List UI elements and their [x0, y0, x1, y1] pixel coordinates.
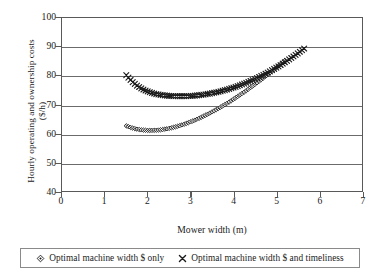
x-tick-mark-0 — [61, 192, 62, 197]
x-tick-mark-2 — [147, 192, 148, 197]
legend-label-dollars-only: Optimal machine width $ only — [49, 253, 164, 263]
diamond-marker-icon — [36, 254, 45, 263]
series-cross — [124, 46, 307, 99]
x-tick-mark-7 — [363, 192, 364, 197]
x-tick-mark-6 — [320, 192, 321, 197]
y-tick-label-80: 80 — [16, 70, 56, 80]
legend-label-dollars-and-timeliness: Optimal machine width $ and timeliness — [191, 253, 343, 263]
y-tick-label-90: 90 — [16, 41, 56, 51]
x-tick-label-4: 4 — [224, 196, 244, 206]
x-tick-label-0: 0 — [51, 196, 71, 206]
y-tick-label-40: 40 — [16, 187, 56, 197]
y-tick-label-70: 70 — [16, 100, 56, 110]
chart-legend: Optimal machine width $ only Optimal mac… — [20, 248, 360, 268]
x-tick-label-7: 7 — [353, 196, 373, 206]
chart-figure: Hourly operating and ownership costs ($/… — [0, 0, 377, 271]
x-tick-mark-4 — [234, 192, 235, 197]
x-tick-label-5: 5 — [267, 196, 287, 206]
legend-entry-dollars-only: Optimal machine width $ only — [36, 253, 164, 263]
y-tick-label-100: 100 — [16, 12, 56, 22]
y-tick-label-50: 50 — [16, 158, 56, 168]
y-tick-label-60: 60 — [16, 129, 56, 139]
plot-area — [61, 17, 363, 192]
legend-entry-dollars-and-timeliness: Optimal machine width $ and timeliness — [178, 253, 343, 263]
data-series-layer — [62, 18, 362, 191]
x-tick-mark-1 — [104, 192, 105, 197]
x-tick-mark-3 — [190, 192, 191, 197]
x-tick-label-3: 3 — [180, 196, 200, 206]
x-tick-label-6: 6 — [310, 196, 330, 206]
x-tick-label-2: 2 — [137, 196, 157, 206]
x-axis-title: Mower width (m) — [61, 224, 363, 235]
x-tick-mark-5 — [277, 192, 278, 197]
x-tick-label-1: 1 — [94, 196, 114, 206]
cross-marker-icon — [178, 254, 187, 263]
